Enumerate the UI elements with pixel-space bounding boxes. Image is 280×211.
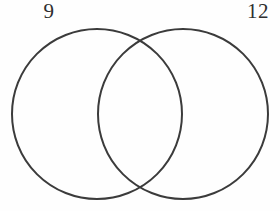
right-set-label: 12 — [240, 1, 276, 22]
venn-diagram-canvas — [0, 0, 280, 211]
venn-diagram-figure: 9 12 — [0, 0, 280, 211]
left-set-label: 9 — [37, 1, 61, 22]
